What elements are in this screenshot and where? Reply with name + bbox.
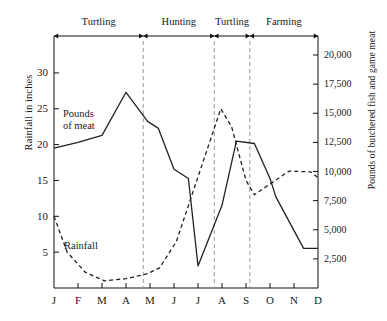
chart-plot-area	[0, 0, 387, 321]
chart-figure: Rainfall in inches Pounds of butchered f…	[0, 0, 387, 321]
